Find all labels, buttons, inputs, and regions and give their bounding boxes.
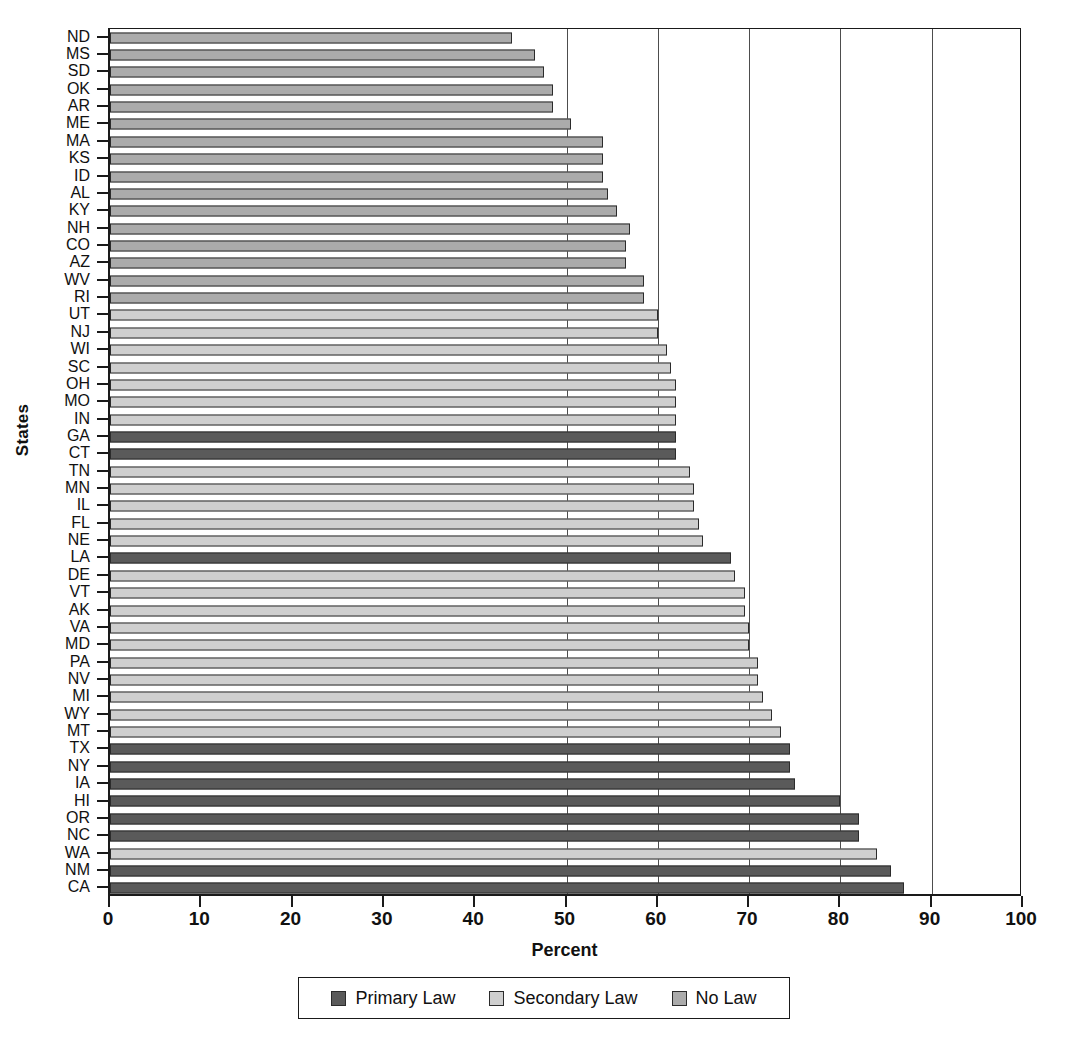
bar-nm: [110, 865, 891, 876]
y-tick-md: [97, 643, 108, 645]
bar-wy: [110, 709, 772, 720]
bar-la: [110, 553, 731, 564]
x-axis-ticks: [108, 896, 1021, 908]
x-tick-100: [1021, 896, 1023, 907]
bar-row: [110, 289, 1020, 306]
plot-area: [108, 28, 1021, 896]
bar-fl: [110, 518, 699, 529]
y-tick-in: [97, 418, 108, 420]
legend-item-primary-law[interactable]: Primary Law: [331, 988, 455, 1009]
bar-nd: [110, 32, 512, 43]
y-tick-label-ks: KS: [69, 150, 90, 166]
bar-row: [110, 151, 1020, 168]
bar-row: [110, 307, 1020, 324]
y-tick-me: [97, 122, 108, 124]
y-tick-label-nc: NC: [67, 827, 90, 843]
x-axis-tick-labels: 0102030405060708090100: [108, 908, 1021, 936]
bar-row: [110, 637, 1020, 654]
y-tick-de: [97, 574, 108, 576]
bar-nc: [110, 831, 859, 842]
x-tick-0: [108, 896, 110, 907]
y-tick-label-va: VA: [70, 619, 90, 635]
bar-tn: [110, 466, 690, 477]
bar-row: [110, 394, 1020, 411]
y-tick-label-nd: ND: [67, 29, 90, 45]
bar-wi: [110, 345, 667, 356]
bar-row: [110, 880, 1020, 897]
legend-item-secondary-law[interactable]: Secondary Law: [489, 988, 637, 1009]
bar-row: [110, 203, 1020, 220]
y-tick-label-pa: PA: [70, 654, 90, 670]
bar-wv: [110, 275, 644, 286]
bar-row: [110, 550, 1020, 567]
y-tick-label-ny: NY: [68, 758, 90, 774]
y-tick-vt: [97, 591, 108, 593]
bar-il: [110, 501, 694, 512]
x-tick-label-20: 20: [280, 908, 301, 930]
bar-row: [110, 428, 1020, 445]
bar-ny: [110, 761, 790, 772]
y-tick-id: [97, 175, 108, 177]
bar-row: [110, 515, 1020, 532]
y-tick-sd: [97, 70, 108, 72]
bar-mi: [110, 692, 763, 703]
y-tick-label-il: IL: [77, 497, 90, 513]
bar-row: [110, 255, 1020, 272]
y-tick-il: [97, 504, 108, 506]
bar-pa: [110, 657, 758, 668]
x-tick-60: [656, 896, 658, 907]
bar-co: [110, 240, 626, 251]
y-tick-al: [97, 192, 108, 194]
bar-row: [110, 741, 1020, 758]
x-tick-label-70: 70: [737, 908, 758, 930]
bar-ar: [110, 102, 553, 113]
y-tick-ok: [97, 88, 108, 90]
y-tick-fl: [97, 522, 108, 524]
bar-row: [110, 706, 1020, 723]
y-tick-label-nh: NH: [67, 220, 90, 236]
y-tick-mo: [97, 400, 108, 402]
bar-row: [110, 793, 1020, 810]
bar-row: [110, 775, 1020, 792]
y-tick-label-la: LA: [70, 549, 90, 565]
bar-row: [110, 723, 1020, 740]
bar-row: [110, 341, 1020, 358]
bar-row: [110, 828, 1020, 845]
bar-row: [110, 359, 1020, 376]
bar-row: [110, 480, 1020, 497]
bar-tx: [110, 744, 790, 755]
bar-id: [110, 171, 603, 182]
y-tick-label-sc: SC: [68, 359, 90, 375]
x-tick-20: [291, 896, 293, 907]
y-tick-label-ca: CA: [68, 879, 90, 895]
bar-wa: [110, 848, 877, 859]
y-tick-label-wi: WI: [70, 341, 90, 357]
bar-ne: [110, 536, 703, 547]
x-tick-label-80: 80: [828, 908, 849, 930]
bar-row: [110, 463, 1020, 480]
bar-row: [110, 585, 1020, 602]
y-tick-label-md: MD: [65, 636, 90, 652]
bar-rows: [110, 29, 1020, 894]
y-tick-label-ga: GA: [67, 428, 90, 444]
y-tick-nd: [97, 36, 108, 38]
y-tick-mn: [97, 487, 108, 489]
y-tick-wa: [97, 852, 108, 854]
y-tick-ga: [97, 435, 108, 437]
bar-ut: [110, 310, 658, 321]
bar-row: [110, 671, 1020, 688]
bar-row: [110, 116, 1020, 133]
y-tick-label-mt: MT: [67, 723, 90, 739]
x-axis-title: Percent: [108, 940, 1021, 961]
bar-me: [110, 119, 571, 130]
bar-row: [110, 845, 1020, 862]
y-tick-ar: [97, 105, 108, 107]
legend-item-no-law[interactable]: No Law: [672, 988, 757, 1009]
y-tick-nv: [97, 678, 108, 680]
y-tick-ct: [97, 452, 108, 454]
y-tick-label-mo: MO: [64, 393, 90, 409]
bar-row: [110, 411, 1020, 428]
y-tick-va: [97, 626, 108, 628]
y-tick-wy: [97, 713, 108, 715]
bar-row: [110, 602, 1020, 619]
